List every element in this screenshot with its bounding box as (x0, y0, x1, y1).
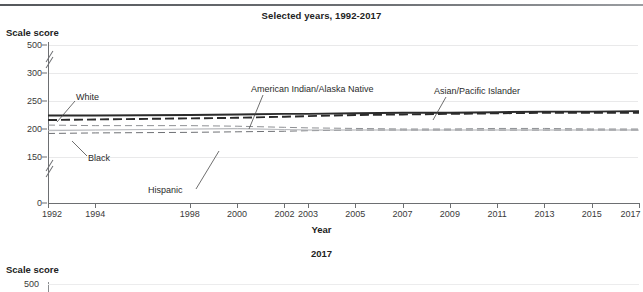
series-label-black: Black (88, 153, 110, 163)
series-label-hispanic: Hispanic (148, 185, 183, 195)
chart-page: Selected years, 1992-2017 Scale score 50… (0, 0, 643, 292)
series-label-asian-pacific-islander: Asian/Pacific Islander (434, 86, 520, 96)
next-chart-title: 2017 (0, 248, 643, 259)
next-chart-y-tick-500: 500 (24, 279, 39, 289)
x-axis-title: Year (0, 224, 643, 235)
next-chart-y-axis-title: Scale score (6, 264, 59, 275)
series-label-white: White (76, 92, 99, 102)
next-chart-gridline (48, 284, 639, 285)
series-label-american-indian-alaska-native: American Indian/Alaska Native (251, 84, 374, 94)
